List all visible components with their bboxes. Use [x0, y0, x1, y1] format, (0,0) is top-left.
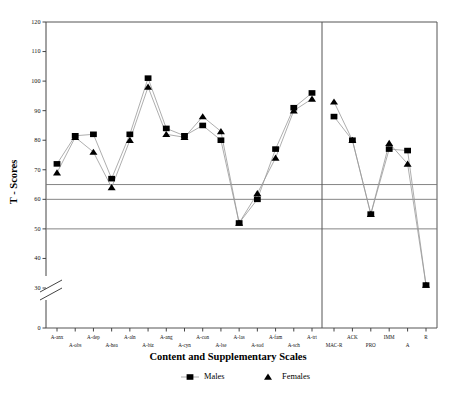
data-point-marker-triangle	[53, 169, 61, 175]
data-point-marker-square	[309, 90, 316, 96]
data-point-marker-square	[108, 176, 115, 182]
x-axis-tick-labels: A-anxA-obsA-depA-heaA-alnA-bizA-angA-cyn…	[51, 334, 429, 348]
data-point-marker-square	[254, 197, 261, 203]
y-tick-label: 30	[34, 284, 40, 291]
y-tick-label: 80	[34, 136, 40, 143]
data-point-marker-triangle	[308, 95, 316, 101]
x-tick-label: R	[424, 334, 428, 340]
chart-container: 030405060708090100110120 A-anxA-obsA-dep…	[0, 0, 451, 393]
data-point-marker-triangle	[162, 131, 170, 137]
x-tick-label: A-lse	[215, 342, 227, 348]
x-tick-label: A-sch	[288, 342, 301, 348]
legend-item-females: Females	[264, 372, 310, 381]
y-tick-label: 40	[34, 254, 40, 261]
data-point-marker-square	[404, 148, 411, 154]
data-point-marker-square	[145, 75, 152, 81]
x-tick-label: A-las	[234, 334, 245, 340]
y-tick-label: 110	[31, 47, 40, 54]
y-tick-label: 90	[34, 107, 40, 114]
x-tick-label: ACK	[347, 334, 358, 340]
x-tick-label: A-sod	[251, 342, 264, 348]
legend-item-males: Males	[181, 372, 224, 381]
x-tick-label: A-dep	[87, 334, 100, 340]
axis-break-marker	[40, 280, 62, 300]
data-point-marker-triangle	[385, 140, 393, 146]
x-axis-title: Content and Supplementary Scales	[149, 351, 306, 362]
y-axis-ticks	[43, 22, 47, 328]
y-tick-label: 100	[31, 77, 40, 84]
data-point-marker-square	[126, 132, 133, 138]
y-tick-label: 60	[34, 195, 40, 202]
x-tick-label: A-ang	[160, 334, 173, 340]
x-axis-ticks	[57, 328, 426, 332]
data-point-marker-triangle	[404, 160, 412, 166]
x-tick-label: A	[406, 342, 410, 348]
data-point-marker-square	[331, 114, 338, 120]
x-tick-label: A-con	[196, 334, 209, 340]
y-tick-label: 50	[34, 225, 40, 232]
series-line-males	[334, 117, 426, 285]
data-point-marker-square	[272, 146, 279, 152]
data-point-marker-triangle	[330, 98, 338, 104]
series-line-females	[334, 102, 426, 285]
x-tick-label: A-aln	[124, 334, 136, 340]
x-tick-label: IMM	[384, 334, 395, 340]
data-point-marker-triangle	[126, 137, 134, 143]
x-tick-label: A-obs	[69, 342, 81, 348]
y-tick-label: 0	[37, 324, 40, 331]
data-point-marker-triangle	[108, 184, 116, 190]
data-point-marker-square	[187, 374, 194, 380]
x-tick-label: PRO	[366, 342, 376, 348]
data-point-marker-square	[163, 126, 170, 132]
x-tick-label: A-biz	[142, 342, 154, 348]
y-axis-tick-labels: 030405060708090100110120	[31, 18, 40, 331]
x-tick-label: A-trt	[307, 334, 317, 340]
y-axis-title: T - Scores	[8, 160, 19, 205]
series-markers	[53, 75, 430, 287]
y-tick-label: 120	[31, 18, 40, 25]
data-point-marker-square	[54, 161, 61, 167]
data-point-marker-triangle	[264, 374, 272, 380]
x-tick-label: MAC-R	[326, 342, 343, 348]
data-point-marker-square	[386, 146, 393, 152]
chart-legend: MalesFemales	[181, 372, 310, 381]
data-point-marker-triangle	[199, 113, 207, 119]
data-point-marker-square	[218, 137, 225, 143]
series-lines	[57, 78, 426, 285]
legend-label: Females	[282, 372, 310, 381]
plot-frame	[46, 22, 437, 328]
x-tick-label: A-anx	[51, 334, 64, 340]
x-tick-label: A-fam	[269, 334, 282, 340]
data-point-marker-square	[199, 123, 206, 129]
legend-label: Males	[204, 372, 224, 381]
t-score-profile-chart: 030405060708090100110120 A-anxA-obsA-dep…	[0, 0, 451, 393]
x-tick-label: A-cyn	[178, 342, 191, 348]
data-point-marker-square	[90, 132, 97, 138]
x-tick-label: A-hea	[105, 342, 118, 348]
y-tick-label: 70	[34, 166, 40, 173]
